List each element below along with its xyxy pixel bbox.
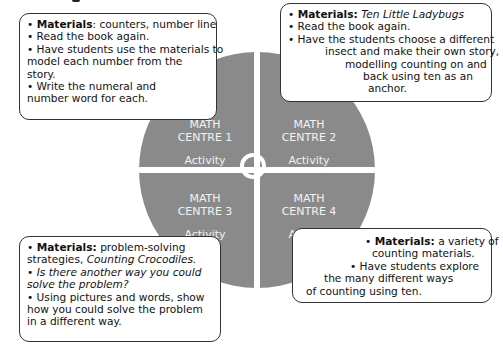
centre-1-line: number word for each. (27, 92, 209, 104)
quadrant-centre-1: MATH CENTRE 1 Activity (165, 118, 245, 167)
centre-3-question-line2: solve the problem? (27, 278, 213, 290)
materials-label: Materials (37, 18, 93, 30)
centre-4-instructions-box: • Materials: a variety of counting mater… (292, 228, 492, 303)
quadrant-centre-3: MATH CENTRE 3 Activity (165, 192, 245, 241)
centre-2-line: modelling counting on and (288, 58, 484, 70)
materials-label: Materials: (298, 8, 358, 20)
centre-1-instructions-box: • Materials: counters, number line • Rea… (19, 13, 217, 120)
centre-4-line: • Have students explore (300, 260, 484, 272)
centre-3-line: how you could solve the problem (27, 303, 213, 315)
centre-1-line: story. (27, 68, 209, 80)
centre-4-title-line2: CENTRE 4 (269, 205, 349, 218)
centre-2-materials: • Materials: Ten Little Ladybugs (288, 8, 484, 20)
centre-3-materials-line2: strategies, Counting Crocodiles. (27, 253, 213, 265)
centre-1-line: • Have students use the materials to (27, 43, 209, 55)
centre-2-line: insect and make their own story, (288, 45, 484, 57)
centre-1-title-line2: CENTRE 1 (165, 131, 245, 144)
centre-1-line: • Write the numeral and (27, 80, 209, 92)
question-line1: Is there another way you could (37, 266, 202, 278)
centre-4-line: of counting using ten. (300, 285, 484, 297)
materials-value: a variety of (438, 235, 498, 247)
centre-2-line: • Read the book again. (288, 20, 484, 32)
centre-1-line: • Read the book again. (27, 30, 209, 42)
centre-2-line: anchor. (288, 82, 484, 94)
centre-2-line: back using ten as an (288, 70, 484, 82)
centre-4-line: counting materials. (300, 247, 484, 259)
centre-3-instructions-box: • Materials: problem-solving strategies,… (19, 236, 221, 342)
centre-4-line: the many different ways (300, 272, 484, 284)
materials-value: : counters, number line (93, 18, 217, 30)
materials-value: Ten Little Ladybugs (361, 8, 464, 20)
centre-1-materials: • Materials: counters, number line (27, 18, 209, 30)
centre-4-title-line1: MATH (269, 192, 349, 205)
centre-3-line: in a different way. (27, 315, 213, 327)
centre-2-activity: Activity (269, 154, 349, 167)
materials-line2-plain: strategies, (27, 253, 87, 265)
centre-3-title-line2: CENTRE 3 (165, 205, 245, 218)
question-line2: solve the problem? (27, 278, 129, 290)
materials-label: Materials: (37, 241, 97, 253)
centre-1-line: model each number from the (27, 55, 209, 67)
centre-2-instructions-box: • Materials: Ten Little Ladybugs • Read … (280, 3, 492, 102)
materials-label: Materials: (375, 235, 435, 247)
top-cropped-text-fragment (72, 0, 80, 2)
centre-3-question: • Is there another way you could (27, 266, 213, 278)
quadrant-centre-2: MATH CENTRE 2 Activity (269, 118, 349, 167)
centre-2-title-line2: CENTRE 2 (269, 131, 349, 144)
centre-3-line: • Using pictures and words, show (27, 291, 213, 303)
materials-value: problem-solving (100, 241, 185, 253)
centre-3-materials: • Materials: problem-solving (27, 241, 213, 253)
centre-1-activity: Activity (165, 154, 245, 167)
centre-3-title-line1: MATH (165, 192, 245, 205)
centre-2-line: • Have the students choose a different (288, 33, 484, 45)
centre-2-title-line1: MATH (269, 118, 349, 131)
book-title: Counting Crocodiles. (87, 253, 197, 265)
centre-4-materials: • Materials: a variety of (300, 235, 484, 247)
